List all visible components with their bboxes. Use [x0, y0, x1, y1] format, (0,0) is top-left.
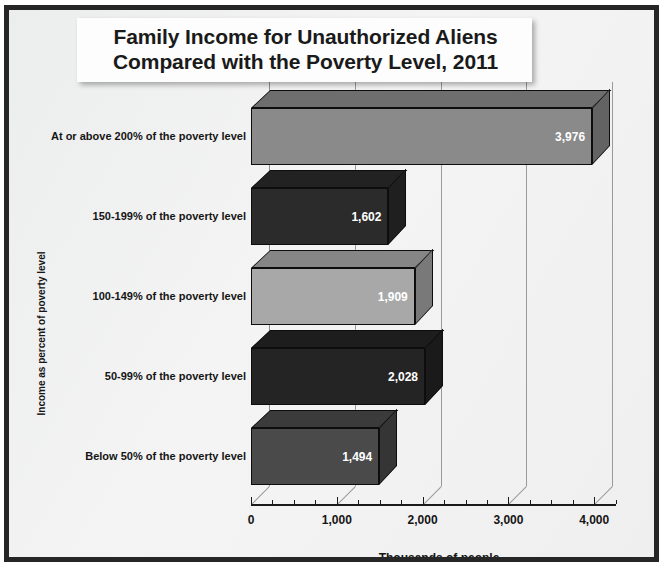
bar-top-face	[251, 170, 408, 188]
bar-top-face	[251, 90, 611, 108]
chart-title: Family Income for Unauthorized Aliens Co…	[77, 18, 532, 82]
x-tick-minor-3500	[551, 500, 552, 504]
x-tick-minor-3250	[530, 500, 531, 504]
x-tick-label-4: 4,000	[554, 513, 634, 527]
x-tick-minor-500	[294, 500, 295, 504]
x-tick-minor-1750	[401, 500, 402, 504]
x-axis-line	[251, 504, 616, 506]
x-tick-label-1: 1,000	[297, 513, 377, 527]
x-tick-minor-1250	[358, 500, 359, 504]
category-label-4: Below 50% of the poverty level	[85, 450, 246, 462]
category-label-0: At or above 200% of the poverty level	[51, 130, 246, 142]
chart-title-line-2: Compared with the Poverty Level, 2011	[89, 49, 522, 74]
x-tick-label-3: 3,000	[468, 513, 548, 527]
category-label-3: 50-99% of the poverty level	[105, 370, 246, 382]
bar-front-face	[251, 108, 592, 165]
bar-4[interactable]: 1,494	[251, 428, 379, 485]
x-tick-major-2000	[423, 497, 424, 504]
x-tick-label-2: 2,000	[383, 513, 463, 527]
bar-value-label: 1,909	[378, 290, 408, 304]
bar-value-label: 1,494	[342, 450, 372, 464]
x-tick-minor-750	[315, 500, 316, 504]
x-tick-major-0	[251, 497, 252, 504]
bar-value-label: 3,976	[555, 130, 585, 144]
chart-title-line-1: Family Income for Unauthorized Aliens	[89, 24, 522, 49]
gridline-slant-0	[251, 486, 270, 505]
category-label-1: 150-199% of the poverty level	[93, 210, 246, 222]
bar-1[interactable]: 1,602	[251, 188, 388, 245]
category-label-2: 100-149% of the poverty level	[93, 290, 246, 302]
bar-3[interactable]: 2,028	[251, 348, 425, 405]
x-tick-label-0: 0	[211, 513, 291, 527]
gridline-slant-4000	[594, 486, 613, 505]
bar-value-label: 2,028	[388, 370, 418, 384]
x-tick-minor-2500	[466, 500, 467, 504]
x-tick-minor-2750	[487, 500, 488, 504]
bar-value-label: 1,602	[351, 210, 381, 224]
x-tick-minor-2250	[444, 500, 445, 504]
gridline-slant-2000	[423, 486, 442, 505]
gridline-slant-3000	[509, 486, 528, 505]
x-tick-major-1000	[337, 497, 338, 504]
x-tick-major-3000	[508, 497, 509, 504]
x-tick-minor-250	[272, 500, 273, 504]
bar-top-face	[251, 250, 434, 268]
x-tick-minor-1500	[380, 500, 381, 504]
bar-top-face	[251, 410, 398, 428]
chart-canvas: Family Income for Unauthorized Aliens Co…	[9, 10, 654, 557]
bar-2[interactable]: 1,909	[251, 268, 415, 325]
gridline-slant-1000	[337, 486, 356, 505]
x-tick-major-4000	[594, 497, 595, 504]
plot-area: 1,494Below 50% of the poverty level2,028…	[9, 10, 654, 557]
bar-top-face	[251, 330, 444, 348]
bar-0[interactable]: 3,976	[251, 108, 592, 165]
chart-frame: Family Income for Unauthorized Aliens Co…	[4, 5, 659, 562]
gridline-4000	[612, 82, 613, 486]
x-tick-minor-3750	[573, 500, 574, 504]
x-tick-minor-4250	[616, 500, 617, 504]
